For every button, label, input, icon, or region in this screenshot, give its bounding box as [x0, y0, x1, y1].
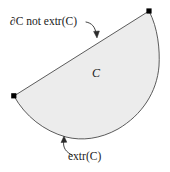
top-right-vertex-marker [146, 8, 151, 13]
convex-set-figure: ∂C not extr(C) extr(C) C [0, 0, 170, 172]
left-vertex-marker [11, 93, 16, 98]
region-c-shape [14, 11, 159, 139]
chord-annotation-arrowhead [94, 31, 100, 38]
arc-annotation-label: extr(C) [68, 151, 101, 163]
chord-annotation-label: ∂C not extr(C) [10, 16, 77, 28]
region-c-label: C [92, 67, 100, 79]
